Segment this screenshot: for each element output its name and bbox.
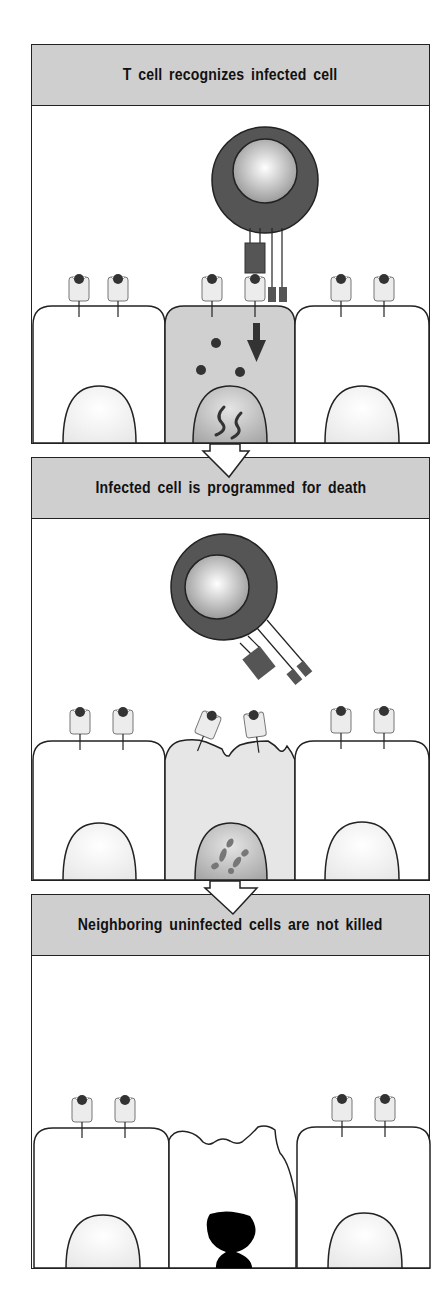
t-cell-receptor bbox=[245, 243, 265, 273]
co-receptor bbox=[279, 287, 287, 302]
viral-particle-icon bbox=[211, 338, 221, 348]
viral-particle-icon bbox=[196, 365, 206, 375]
t-cell-nucleus bbox=[185, 555, 249, 619]
viral-particle-icon bbox=[235, 367, 245, 377]
panel-1-art bbox=[33, 127, 429, 443]
t-cell-nucleus bbox=[233, 139, 297, 203]
step-arrow-icon bbox=[203, 444, 249, 477]
panel-3-art bbox=[34, 1094, 430, 1268]
panel-2-art bbox=[33, 534, 429, 880]
step-arrow-icon bbox=[205, 881, 257, 914]
co-receptor bbox=[268, 287, 276, 302]
illustration bbox=[0, 0, 444, 1293]
